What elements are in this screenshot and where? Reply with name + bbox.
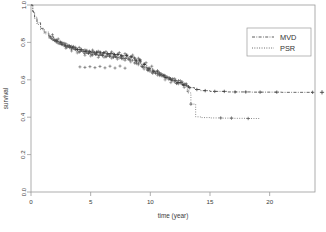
censor-mark: [213, 90, 216, 93]
y-tick-label: 1.0: [20, 0, 27, 9]
censor-mark: [98, 65, 101, 68]
y-axis-tick-labels: 0.00.20.40.60.81.0: [20, 0, 27, 196]
censor-mark: [116, 53, 119, 56]
censor-mark: [108, 65, 111, 68]
censor-mark: [108, 55, 111, 58]
censor-mark: [129, 60, 132, 63]
censor-mark: [93, 66, 96, 69]
outside-censor-marker: [320, 90, 324, 94]
censor-mark: [123, 67, 126, 70]
y-tick-label: 0.4: [20, 112, 27, 121]
y-axis-title: survival: [2, 88, 9, 110]
censor-mark: [244, 90, 247, 93]
censor-mark: [131, 59, 134, 62]
survival-chart: 05101520 0.00.20.40.60.81.0 MVDPSR time …: [0, 0, 326, 232]
x-tick-label: 15: [207, 198, 214, 205]
x-axis-ticks: [31, 192, 270, 196]
censor-mark: [246, 117, 249, 120]
y-tick-label: 0.0: [20, 187, 27, 196]
legend-label-mvd: MVD: [280, 33, 296, 42]
survival-curves: [31, 5, 313, 119]
x-tick-label: 20: [266, 198, 273, 205]
censor-mark: [118, 65, 121, 68]
censor-mark: [186, 89, 189, 92]
censor-mark: [83, 54, 86, 57]
censor-mark: [230, 116, 233, 119]
censor-mark: [123, 59, 126, 62]
y-axis-ticks: [27, 5, 31, 192]
y-tick-label: 0.6: [20, 75, 27, 84]
censor-mark: [70, 49, 73, 52]
censor-mark: [78, 46, 81, 49]
censor-mark: [129, 55, 132, 58]
censor-mark: [51, 33, 54, 36]
censor-mark: [183, 86, 186, 89]
x-tick-label: 0: [29, 198, 33, 205]
censor-mark: [76, 51, 79, 54]
censor-mark: [173, 77, 176, 80]
censor-mark: [311, 91, 314, 94]
censor-mark: [91, 49, 94, 52]
y-tick-label: 0.8: [20, 38, 27, 47]
legend-box: MVDPSR: [247, 28, 311, 56]
censor-mark: [78, 65, 81, 68]
censor-mark: [113, 66, 116, 69]
censor-mark: [83, 66, 86, 69]
censor-mark: [97, 56, 100, 59]
x-axis-title: time (year): [158, 212, 189, 220]
censor-mark-outside: [320, 90, 324, 94]
y-tick-label: 0.2: [20, 150, 27, 159]
x-tick-label: 10: [147, 198, 154, 205]
censor-mark: [189, 102, 192, 105]
censor-mark: [275, 90, 278, 93]
censor-mark: [150, 65, 153, 68]
x-axis-tick-labels: 05101520: [29, 198, 273, 205]
x-tick-label: 5: [89, 198, 93, 205]
censor-mark: [103, 66, 106, 69]
censor-mark: [233, 90, 236, 93]
censor-mark: [110, 50, 113, 53]
censor-mark: [258, 90, 261, 93]
censor-mark: [223, 90, 226, 93]
censor-mark: [88, 65, 91, 68]
censor-mark: [195, 88, 198, 91]
legend-label-psr: PSR: [280, 44, 295, 53]
curve-psr: [31, 5, 260, 119]
censor-mark: [204, 89, 207, 92]
censor-mark: [219, 116, 222, 119]
plot-canvas: 05101520 0.00.20.40.60.81.0 MVDPSR time …: [0, 0, 326, 232]
censor-mark: [164, 78, 167, 81]
